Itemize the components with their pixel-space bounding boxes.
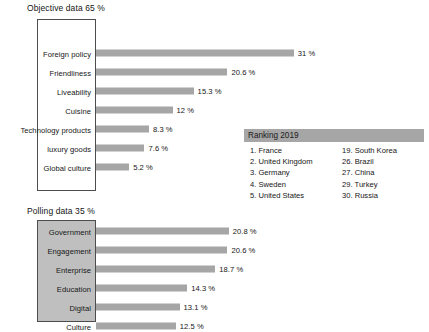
- ranking-list-item: 30. Russia: [342, 190, 397, 201]
- infographic-canvas: Objective data 65 % Foreign policyFriend…: [0, 0, 429, 332]
- bar-value-label: 20.8 %: [233, 226, 257, 235]
- category-label: Digital: [70, 303, 91, 312]
- category-label-row: Cuisine: [38, 101, 95, 120]
- ranking-list-item: 19. South Korea: [342, 145, 397, 156]
- ranking-list-item: 27. China: [342, 167, 397, 178]
- bar: [96, 68, 227, 75]
- bar: [96, 87, 194, 94]
- bar-value-label: 20.6 %: [231, 245, 255, 254]
- bar: [96, 49, 294, 56]
- bar-row: 12 %: [96, 100, 429, 119]
- bar-row: 20.8 %: [96, 221, 429, 240]
- ranking-header-label: Ranking 2019: [248, 131, 299, 140]
- bar-row: 15.3 %: [96, 81, 429, 100]
- bar-value-label: 7.6 %: [148, 143, 168, 152]
- bar-value-label: 20.6 %: [231, 67, 255, 76]
- category-label-row: Enterprise: [38, 260, 95, 279]
- category-label: Education: [57, 284, 91, 293]
- objective-chart-title: Objective data 65 %: [27, 3, 105, 13]
- bar-row: 20.6 %: [96, 240, 429, 259]
- category-label: Culture: [66, 322, 91, 331]
- bar-value-label: 15.3 %: [198, 86, 222, 95]
- ranking-list-item: 5. United States: [250, 190, 312, 201]
- category-label-row: Culture: [38, 317, 95, 332]
- category-label: Engagement: [47, 246, 91, 255]
- bar: [96, 125, 149, 132]
- category-label: Foreign policy: [43, 49, 91, 58]
- category-label: Cuisine: [65, 106, 91, 115]
- polling-plot-area: 20.8 %20.6 %18.7 %14.3 %13.1 %12.5 %: [96, 220, 429, 322]
- bar-value-label: 5.2 %: [133, 162, 153, 171]
- bar: [96, 106, 173, 113]
- ranking-list-item: 2. United Kingdom: [250, 156, 312, 167]
- category-label: luxury goods: [47, 144, 91, 153]
- category-label: Government: [49, 227, 91, 236]
- ranking-list-item: 3. Germany: [250, 167, 312, 178]
- bar-value-label: 31 %: [298, 48, 316, 57]
- ranking-card: Ranking 2019 1. France2. United Kingdom3…: [244, 129, 424, 201]
- category-label: Friendliness: [49, 68, 91, 77]
- category-label: Global culture: [43, 163, 91, 172]
- bar: [96, 163, 129, 170]
- category-label-row: Liveability: [38, 82, 95, 101]
- bar-value-label: 12.5 %: [180, 321, 204, 330]
- ranking-list-item: 26. Brazil: [342, 156, 397, 167]
- ranking-list-item: 1. France: [250, 145, 312, 156]
- bar-row: 13.1 %: [96, 297, 429, 316]
- bar: [96, 227, 229, 234]
- category-label-row: Technology products: [38, 120, 95, 139]
- bar-value-label: 8.3 %: [153, 124, 173, 133]
- bar-row: 12.5 %: [96, 316, 429, 332]
- category-label-row: Education: [38, 279, 95, 298]
- ranking-left-column: 1. France2. United Kingdom3. Germany4. S…: [250, 145, 312, 201]
- ranking-list-item: 29. Turkey: [342, 179, 397, 190]
- bar-row: 18.7 %: [96, 259, 429, 278]
- bar-value-label: 14.3 %: [191, 283, 215, 292]
- polling-category-box: GovernmentEngagementEnterpriseEducationD…: [37, 220, 96, 322]
- bar: [96, 303, 180, 310]
- objective-category-box: Foreign policyFriendlinessLiveabilityCui…: [37, 19, 96, 191]
- bar: [96, 246, 227, 253]
- bar-row: 14.3 %: [96, 278, 429, 297]
- bar: [96, 322, 176, 329]
- category-label-row: Government: [38, 222, 95, 241]
- category-label-row: luxury goods: [38, 139, 95, 158]
- category-label: Liveability: [57, 87, 91, 96]
- ranking-list-item: 4. Sweden: [250, 179, 312, 190]
- category-label: Enterprise: [56, 265, 91, 274]
- category-label-row: Foreign policy: [38, 44, 95, 63]
- category-label: Technology products: [20, 125, 91, 134]
- bar-row: 20.6 %: [96, 62, 429, 81]
- category-label-row: Global culture: [38, 158, 95, 177]
- bar-value-label: 18.7 %: [219, 264, 243, 273]
- bar-value-label: 12 %: [177, 105, 195, 114]
- bar: [96, 265, 215, 272]
- category-label-row: Digital: [38, 298, 95, 317]
- bar-value-label: 13.1 %: [184, 302, 208, 311]
- category-label-row: Engagement: [38, 241, 95, 260]
- bar: [96, 144, 144, 151]
- category-label-row: Friendliness: [38, 63, 95, 82]
- bar-row: 31 %: [96, 43, 429, 62]
- polling-chart-title: Polling data 35 %: [27, 206, 95, 216]
- ranking-right-column: 19. South Korea26. Brazil27. China29. Tu…: [342, 145, 397, 201]
- bar: [96, 284, 187, 291]
